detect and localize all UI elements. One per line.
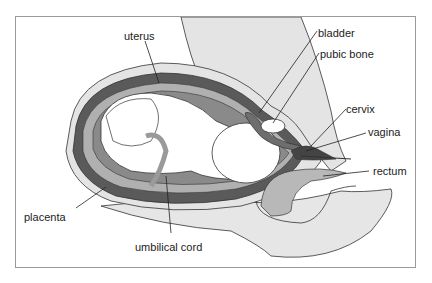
label-placenta: placenta: [24, 211, 66, 223]
label-pubic-bone: pubic bone: [320, 48, 374, 60]
label-cervix: cervix: [346, 103, 375, 115]
label-vagina: vagina: [368, 126, 400, 138]
pubic-bone: [261, 119, 285, 133]
label-bladder: bladder: [318, 27, 355, 39]
diagram-frame: uterus bladder pubic bone cervix vagina …: [15, 16, 416, 268]
label-umbilical-cord: umbilical cord: [135, 241, 202, 253]
label-uterus: uterus: [124, 30, 155, 42]
label-rectum: rectum: [373, 165, 407, 177]
